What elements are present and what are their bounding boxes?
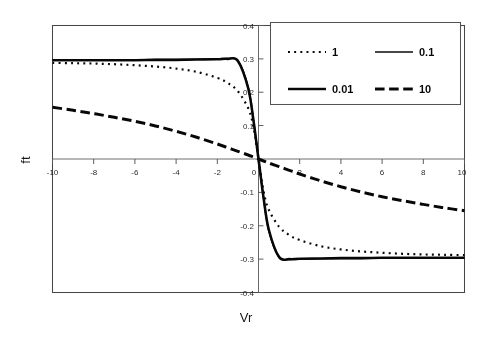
y-tick-label: -0.1 xyxy=(240,188,254,197)
x-tick-label: 10 xyxy=(458,168,467,177)
x-tick-label: -6 xyxy=(131,168,139,177)
x-tick-label: 8 xyxy=(421,168,426,177)
x-tick-label: 6 xyxy=(380,168,385,177)
x-tick-label: -4 xyxy=(173,168,181,177)
x-tick-label: 4 xyxy=(339,168,344,177)
legend-box xyxy=(271,23,461,105)
chart-figure: -10 -8 -6 -4 -2 0 2 4 6 8 10 0.4 0.3 0.2… xyxy=(0,0,493,341)
y-tick-label: -0.4 xyxy=(240,289,254,298)
x-tick-label: -2 xyxy=(214,168,222,177)
x-tick-label: -10 xyxy=(47,168,59,177)
y-tick-label: 0.4 xyxy=(243,22,255,31)
x-axis-title: Vr xyxy=(240,310,253,325)
legend-label-1: 1 xyxy=(332,46,338,58)
y-tick-label: 0.3 xyxy=(243,55,255,64)
x-tick-label: -8 xyxy=(90,168,98,177)
legend-label-10: 10 xyxy=(419,83,431,95)
x-tick-label: 0 xyxy=(252,168,257,177)
y-tick-label: -0.3 xyxy=(240,255,254,264)
chart-canvas: -10 -8 -6 -4 -2 0 2 4 6 8 10 0.4 0.3 0.2… xyxy=(0,0,493,341)
legend-label-0.1: 0.1 xyxy=(419,46,434,58)
y-tick-label: -0.2 xyxy=(240,222,254,231)
y-axis-title: ft xyxy=(18,156,33,164)
legend-label-0.01: 0.01 xyxy=(332,83,353,95)
